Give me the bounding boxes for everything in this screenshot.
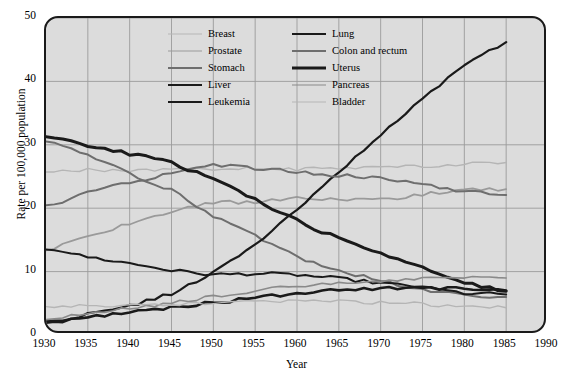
- legend-swatch-icon: [168, 97, 202, 107]
- legend-item-colon-and-rectum: Colon and rectum: [292, 43, 428, 58]
- series-line-bladder: [46, 300, 506, 308]
- legend-swatch-icon: [168, 46, 202, 56]
- x-tick-label: 1965: [315, 337, 359, 349]
- y-tick-label: 20: [2, 200, 36, 210]
- x-tick-label: 1970: [357, 337, 401, 349]
- x-tick-label: 1940: [106, 337, 150, 349]
- x-tick-label: 1950: [189, 337, 233, 349]
- chart-root: Rate per 100,000 population 50403020100 …: [0, 0, 569, 377]
- legend-swatch-icon: [168, 29, 202, 39]
- y-axis-title: Rate per 100,000 population: [15, 29, 27, 279]
- legend-label: Pancreas: [332, 79, 369, 90]
- legend-item-breast: Breast: [168, 26, 292, 41]
- legend-label: Lung: [332, 28, 354, 39]
- legend-swatch-icon: [292, 97, 326, 107]
- y-tick-label: 40: [2, 73, 36, 83]
- x-tick-label: 1930: [22, 337, 66, 349]
- legend-label: Liver: [208, 79, 231, 90]
- x-tick-label: 1960: [273, 337, 317, 349]
- legend-label: Prostate: [208, 45, 242, 56]
- legend-swatch-icon: [168, 63, 202, 73]
- x-tick-label: 1935: [64, 337, 108, 349]
- x-tick-label: 1980: [440, 337, 484, 349]
- legend-item-pancreas: Pancreas: [292, 77, 428, 92]
- legend-swatch-icon: [168, 80, 202, 90]
- legend-item-lung: Lung: [292, 26, 428, 41]
- legend-swatch-icon: [292, 29, 326, 39]
- legend-swatch-icon: [292, 63, 326, 73]
- series-line-uterus: [46, 137, 506, 291]
- x-axis-title: Year: [0, 358, 569, 370]
- legend-item-bladder: Bladder: [292, 94, 428, 109]
- x-tick-label: 1990: [524, 337, 568, 349]
- legend-swatch-icon: [292, 46, 326, 56]
- x-tick-label: 1985: [482, 337, 526, 349]
- legend-swatch-icon: [292, 80, 326, 90]
- legend-item-leukemia: Leukemia: [168, 94, 292, 109]
- legend-item-stomach: Stomach: [168, 60, 292, 75]
- x-tick-label: 1945: [148, 337, 192, 349]
- legend-label: Uterus: [332, 62, 360, 73]
- legend-item-liver: Liver: [168, 77, 292, 92]
- x-tick-label: 1955: [231, 337, 275, 349]
- series-line-prostate: [46, 188, 506, 250]
- legend-label: Bladder: [332, 96, 365, 107]
- y-tick-label: 10: [2, 264, 36, 274]
- legend-label: Breast: [208, 28, 235, 39]
- legend-item-uterus: Uterus: [292, 60, 428, 75]
- legend-label: Leukemia: [208, 96, 250, 107]
- chart-legend: BreastLungProstateColon and rectumStomac…: [168, 26, 428, 109]
- legend-label: Stomach: [208, 62, 245, 73]
- y-tick-label: 50: [2, 10, 36, 20]
- x-tick-label: 1975: [399, 337, 443, 349]
- y-tick-label: 0: [2, 327, 36, 337]
- y-tick-label: 30: [2, 137, 36, 147]
- series-line-breast: [46, 162, 506, 172]
- legend-label: Colon and rectum: [332, 45, 407, 56]
- legend-item-prostate: Prostate: [168, 43, 292, 58]
